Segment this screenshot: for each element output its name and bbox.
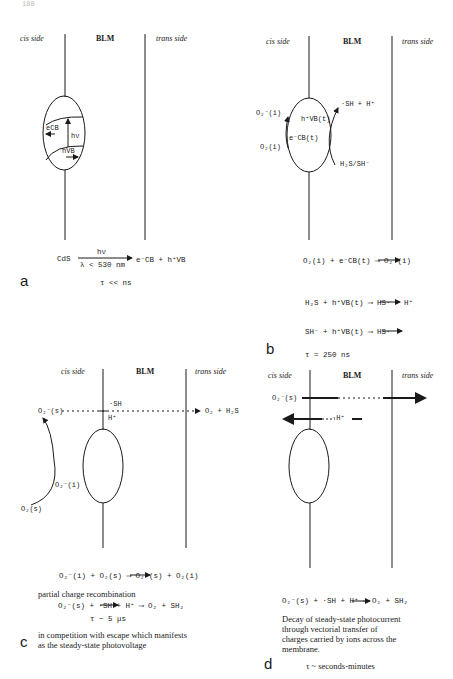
panel-c-o2-radical-s-label: O₂⁻(s) bbox=[38, 407, 63, 415]
panel-d-letter: d bbox=[264, 655, 272, 672]
panel-b-hole-label: h⁺VB(t) bbox=[301, 115, 330, 123]
panel-b-cis-header: cis side bbox=[266, 37, 290, 46]
panel-b-letter: b bbox=[266, 340, 274, 357]
panel-c-tau: τ ~ 5 μs bbox=[90, 615, 126, 623]
panel-b-trans-header: trans side bbox=[402, 37, 433, 46]
panel-a-blm-header: BLM bbox=[96, 34, 114, 43]
panel-d-note-line-2: through vectorial transfer of bbox=[282, 624, 378, 634]
panel-b-blm-header: BLM bbox=[343, 37, 361, 46]
panel-a-products: e⁻CB + h⁺VB bbox=[136, 255, 186, 264]
panel-a-trans-header: trans side bbox=[156, 34, 187, 43]
panel-d-blm-header: BLM bbox=[343, 371, 361, 380]
panel-b-reaction-3: SH⁻ + h⁺VB(t) ⟶ HS· bbox=[305, 327, 391, 336]
panel-d-note-line-4: membrane. bbox=[282, 644, 320, 654]
panel-a-tau: τ << ns bbox=[100, 279, 132, 287]
panel-b-reaction-1: O₂(i) + e⁻CB(t) ⟶ O₂⁻(i) bbox=[303, 256, 411, 265]
panel-a-above-arrow: hν bbox=[97, 248, 106, 256]
panel-a-letter: a bbox=[20, 272, 28, 289]
panel-c-letter: c bbox=[20, 633, 28, 650]
panel-b-electron-label: e⁻CB(t) bbox=[289, 134, 318, 142]
panel-c-note-1: partial charge recombination bbox=[38, 589, 136, 599]
panel-d-note-line-3: charges carried by ions across the bbox=[282, 634, 396, 644]
panel-b-tau: τ = 250 ns bbox=[305, 351, 350, 359]
panel-b-reaction-2: H₂S + h⁺VB(t) ⟶ HS· + H⁺ bbox=[305, 298, 413, 307]
panel-c-particle bbox=[83, 429, 123, 503]
panel-a-electron-label: eCB bbox=[46, 124, 59, 132]
panel-c-note-2-line-1: in competition with escape which manifes… bbox=[38, 630, 187, 640]
panel-b-h2s-label: H₂S/SH⁻ bbox=[340, 160, 369, 168]
page-number: 188 bbox=[22, 0, 35, 8]
panel-d-note-line-1: Decay of steady-state photocurrent bbox=[282, 614, 401, 624]
panel-d-h-plus-label: ·H⁺ bbox=[332, 414, 345, 422]
panel-c-note-2-line-2: as the steady-state photovoltage bbox=[38, 640, 146, 650]
panel-c-products-label: O₂ + H₂S bbox=[205, 407, 239, 415]
panel-c-trans-header: trans side bbox=[195, 367, 226, 376]
panel-a-photon-label: hν bbox=[71, 132, 79, 140]
panel-d-reaction: O₂⁻(s) + ·SH + H⁺ ⟶ O₂ + SH₂ bbox=[282, 596, 408, 605]
panel-d-particle bbox=[289, 429, 329, 503]
panel-d-o2-radical-s-label: O₂⁻(s) bbox=[272, 394, 297, 402]
panel-b-o2-label: O₂(i) bbox=[260, 143, 281, 151]
panel-c-cis-header: cis side bbox=[61, 367, 85, 376]
panel-a-reactant: CdS bbox=[57, 255, 71, 263]
panel-c-reaction-1: O₂⁻(i) + O₂(s) ⟶ O₂⁻(s) + O₂(i) bbox=[59, 571, 199, 580]
panel-a-hole-label: hVB bbox=[62, 147, 75, 155]
panel-a-below-arrow: λ < 530 nm bbox=[80, 261, 125, 269]
panel-c-sh-label: ·SH bbox=[109, 400, 122, 408]
panel-d-cis-header: cis side bbox=[268, 371, 292, 380]
panel-b-o2-radical-label: O₂⁻(i) bbox=[256, 109, 281, 117]
panel-c-o2-s-label: O₂(s) bbox=[21, 505, 42, 513]
panel-c-o2-radical-i-label: O₂⁻(i) bbox=[55, 481, 80, 489]
panel-d-tau: τ ~ seconds-minutes bbox=[306, 661, 375, 671]
panel-d-trans-header: trans side bbox=[402, 371, 433, 380]
panel-b-sh-h-label: ·SH + H⁺ bbox=[341, 100, 375, 108]
panel-c-blm-header: BLM bbox=[136, 367, 154, 376]
panel-c-reaction-2: O₂⁻(s) + ·SH + H⁺ ⟶ O₂ + SH₂ bbox=[58, 601, 184, 610]
panel-c-h-plus-label: H⁺ bbox=[108, 414, 116, 422]
panel-a-cis-header: cis side bbox=[20, 34, 44, 43]
